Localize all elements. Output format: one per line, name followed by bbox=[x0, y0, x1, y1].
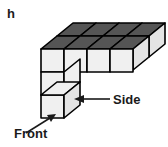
front-cube-4-front-face bbox=[110, 49, 133, 72]
cube-structure-drawing bbox=[0, 0, 168, 147]
cube-structure-figure: h Side Front bbox=[0, 0, 168, 147]
front-row-front-faces-group bbox=[41, 49, 133, 72]
front-cube-3-front-face bbox=[87, 49, 110, 72]
figure-part-label: h bbox=[7, 7, 15, 20]
front-callout-label: Front bbox=[14, 127, 47, 140]
front-cube-1-front-face bbox=[41, 49, 64, 72]
front-row-top-faces-group bbox=[41, 36, 149, 49]
side-callout-label: Side bbox=[113, 93, 140, 106]
